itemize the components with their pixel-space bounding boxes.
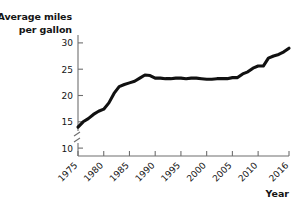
y-tick-label-30: 30 [62,38,74,48]
y-tick-label-15: 15 [62,117,73,127]
x-tick-label-2010: 2010 [236,160,259,183]
x-tick-label-1990: 1990 [133,160,156,183]
y-axis-title-line2: per gallon [19,24,73,35]
data-line-average-mpg [78,48,289,127]
x-tick-label-2005: 2005 [211,160,234,183]
x-tick-label-2000: 2000 [185,160,208,183]
y-tick-label-25: 25 [62,65,73,75]
y-axis-break-icon [74,132,80,142]
chart-container: Average miles per gallon 1015202530 1975… [0,0,306,207]
y-tick-label-20: 20 [62,91,74,101]
x-tick-label-1995: 1995 [159,160,182,183]
x-tick-label-1985: 1985 [108,160,131,183]
x-tick-label-1975: 1975 [56,160,79,183]
x-tick-label-1980: 1980 [82,160,105,183]
mpg-line-chart: Average miles per gallon 1015202530 1975… [0,0,306,207]
y-axis-ticks: 1015202530 [62,38,83,153]
y-axis-title-line1: Average miles [0,11,72,22]
x-axis-title: Year [264,188,289,199]
y-tick-label-10: 10 [62,144,74,154]
x-tick-label-2016: 2016 [267,160,290,183]
